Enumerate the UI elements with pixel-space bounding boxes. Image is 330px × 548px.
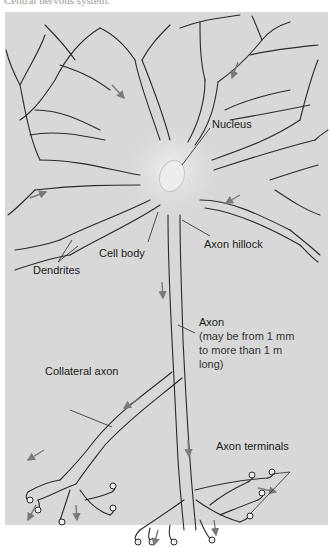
label-axon-note-line-3: long)	[199, 358, 223, 371]
axon-terminal-branches	[135, 472, 273, 542]
label-axon-note-line-1: (may be from 1 mm	[199, 330, 294, 343]
label-axon-terminals: Axon terminals	[216, 440, 289, 453]
label-nucleus: Nucleus	[212, 118, 252, 131]
label-collateral-axon: Collateral axon	[45, 365, 118, 378]
cell-body-shape	[117, 120, 227, 220]
collateral-terminals	[26, 480, 115, 523]
label-axon: Axon	[199, 316, 224, 329]
label-axon-note-line-2: to more than 1 m	[199, 344, 282, 357]
label-cell-body: Cell body	[99, 247, 145, 260]
label-axon-hillock: Axon hillock	[204, 238, 263, 251]
collateral-axon-shape	[60, 372, 182, 484]
label-dendrites: Dendrites	[33, 264, 80, 277]
